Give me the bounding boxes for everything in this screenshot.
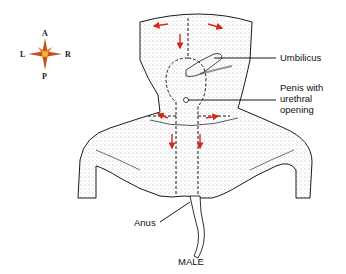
penis-label-line3: opening	[280, 104, 323, 115]
compass-posterior-label: P	[42, 72, 47, 81]
tail	[190, 196, 204, 258]
umbilicus-label: Umbilicus	[280, 52, 321, 63]
caption-male: MALE	[178, 256, 204, 267]
compass-anterior-label: A	[42, 29, 48, 38]
urethral-opening	[184, 98, 189, 103]
compass-left-label: L	[20, 50, 25, 59]
diagram-canvas: A P L R Umbilicus Penis with urethral op…	[0, 0, 346, 274]
penis-label: Penis with urethral opening	[280, 82, 323, 115]
compass-right-label: R	[65, 50, 71, 59]
compass-rose	[28, 38, 62, 70]
anus-label: Anus	[134, 217, 156, 228]
dissection-illustration	[0, 0, 346, 274]
body-outline	[78, 14, 312, 198]
penis-label-line1: Penis with	[280, 82, 323, 93]
penis-label-line2: urethral	[280, 93, 323, 104]
